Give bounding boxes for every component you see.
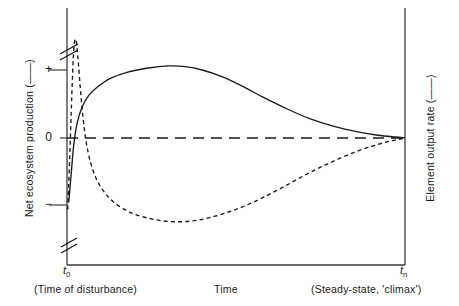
- t-n-subscript: n: [403, 270, 407, 279]
- x-axis-title: Time: [214, 283, 238, 295]
- t-zero-subscript: 0: [66, 270, 70, 279]
- chart-figure: Net ecosystem production (——) Element ou…: [0, 0, 459, 306]
- series-line-element-output-rate: [68, 39, 405, 222]
- x-tick-label-t-zero: t0: [63, 264, 71, 279]
- x-axis-caption-right: (Steady-state, 'climax'): [311, 283, 421, 295]
- series-line-net-ecosystem-production: [69, 66, 405, 203]
- plot-area: [0, 0, 459, 306]
- axis-break-upper-icon: [60, 44, 78, 60]
- axis-break-lower-icon: [61, 238, 77, 253]
- x-tick-label-t-n: tn: [400, 264, 408, 279]
- x-axis-caption-left: (Time of disturbance): [34, 283, 137, 295]
